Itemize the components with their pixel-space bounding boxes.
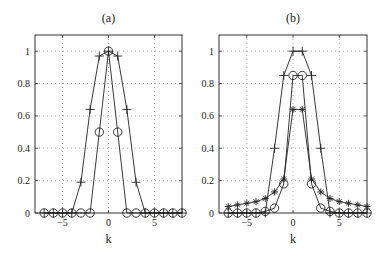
plus-marker [289, 47, 298, 56]
series-line [228, 109, 367, 206]
x-tick-label: −5 [57, 217, 68, 228]
series-star [225, 106, 371, 210]
subplot-b: −50500.20.40.60.81(b)k [202, 11, 372, 246]
plus-marker [86, 105, 95, 114]
x-tick-label: 0 [291, 217, 296, 228]
star-marker [354, 201, 361, 208]
plus-marker [298, 47, 307, 56]
star-marker [364, 203, 371, 210]
star-marker [280, 176, 287, 183]
figure-canvas: −50500.20.40.60.81(a)k−50500.20.40.60.81… [0, 0, 385, 256]
series-plus [224, 47, 372, 218]
subplot-title: (a) [102, 11, 115, 25]
y-tick-label: 0.6 [202, 110, 215, 121]
y-tick-label: 0 [25, 208, 30, 219]
y-tick-label: 0 [209, 208, 214, 219]
grid [35, 35, 182, 213]
series-line [228, 75, 367, 213]
star-marker [290, 106, 297, 113]
star-marker [243, 200, 250, 207]
series-circle [224, 71, 371, 217]
plus-marker [270, 144, 279, 153]
y-tick-label: 1 [209, 46, 214, 57]
series-circle [40, 47, 186, 217]
star-marker [345, 200, 352, 207]
y-tick-label: 0.8 [18, 78, 31, 89]
star-marker [327, 195, 334, 202]
y-tick-label: 0.4 [18, 143, 31, 154]
x-axis-label: k [106, 232, 112, 246]
plus-marker [122, 105, 131, 114]
y-tick-label: 0.2 [18, 175, 31, 186]
x-tick-label: 5 [152, 217, 157, 228]
subplot-title: (b) [286, 11, 300, 25]
star-marker [262, 195, 269, 202]
plus-marker [307, 71, 316, 80]
plus-marker [76, 178, 85, 187]
star-marker [336, 198, 343, 205]
x-tick-label: 5 [337, 217, 342, 228]
star-marker [271, 188, 278, 195]
star-marker [234, 201, 241, 208]
y-tick-label: 1 [25, 46, 30, 57]
y-tick-label: 0.4 [202, 143, 215, 154]
plus-marker [279, 71, 288, 80]
x-tick-label: −5 [241, 217, 252, 228]
grid [219, 35, 367, 213]
plus-marker [132, 178, 141, 187]
y-tick-label: 0.8 [202, 78, 215, 89]
star-marker [317, 188, 324, 195]
plus-marker [316, 144, 325, 153]
plus-marker [95, 52, 104, 61]
star-marker [308, 176, 315, 183]
star-marker [299, 106, 306, 113]
y-tick-label: 0.6 [18, 110, 31, 121]
x-tick-label: 0 [106, 217, 111, 228]
y-tick-label: 0.2 [202, 175, 215, 186]
x-axis-label: k [290, 232, 296, 246]
star-marker [253, 198, 260, 205]
subplot-a: −50500.20.40.60.81(a)k [18, 11, 187, 246]
plus-marker [113, 52, 122, 61]
star-marker [225, 203, 232, 210]
